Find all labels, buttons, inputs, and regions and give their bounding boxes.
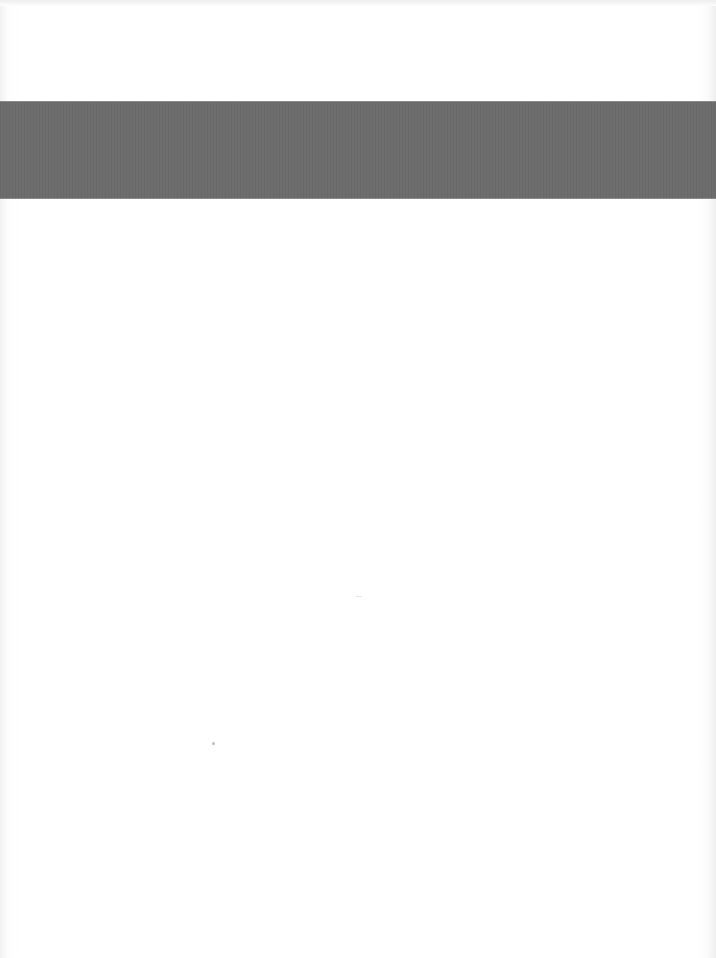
page-top-edge — [0, 0, 716, 6]
dust-speck — [212, 742, 215, 745]
scanned-page — [0, 0, 716, 958]
faint-mark — [356, 596, 362, 597]
gray-header-banner — [0, 101, 716, 199]
